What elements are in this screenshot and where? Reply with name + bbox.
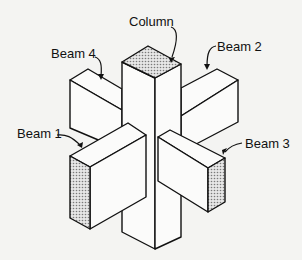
- diagram-canvas: Column Beam 4 Beam 2 Beam 1 Beam 3: [0, 0, 302, 260]
- beam-3-end-face: [208, 158, 225, 212]
- beam-1-end-face: [70, 156, 90, 229]
- beam-3-label: Beam 3: [245, 137, 290, 150]
- beam-4-label: Beam 4: [51, 47, 96, 60]
- beam-2-label: Beam 2: [217, 40, 262, 53]
- column-leader: [171, 27, 176, 57]
- column-label: Column: [129, 15, 174, 28]
- beam2-leader: [207, 46, 216, 66]
- beam3-leader: [225, 143, 242, 152]
- beam-1-label: Beam 1: [17, 127, 62, 140]
